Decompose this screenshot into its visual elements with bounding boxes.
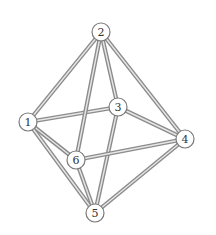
edge-highlight — [28, 107, 118, 122]
edge-6-4 — [76, 139, 185, 160]
node-5: 5 — [86, 204, 104, 222]
edge-highlight — [76, 139, 185, 160]
edge-highlight — [28, 122, 95, 213]
edge-1-3 — [28, 107, 118, 122]
node-label: 4 — [182, 133, 189, 146]
node-2: 2 — [92, 23, 110, 41]
node-1: 1 — [19, 113, 37, 131]
edge-highlight — [76, 32, 101, 160]
node-label: 1 — [25, 116, 32, 129]
edge-2-6 — [76, 32, 101, 160]
edge-highlight — [28, 32, 101, 122]
edges-group — [28, 32, 185, 213]
node-label: 2 — [98, 26, 105, 39]
node-6: 6 — [67, 151, 85, 169]
node-label: 3 — [115, 101, 122, 114]
node-label: 6 — [73, 154, 80, 167]
edge-1-5 — [28, 122, 95, 213]
node-4: 4 — [176, 130, 194, 148]
edge-1-2 — [28, 32, 101, 122]
octahedron-diagram: 123456 — [0, 0, 216, 235]
node-3: 3 — [109, 98, 127, 116]
node-label: 5 — [92, 207, 99, 220]
